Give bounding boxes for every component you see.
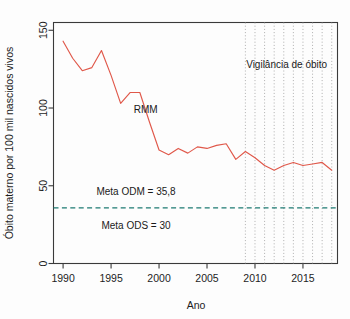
chart-canvas: 050100150 199019952000200520102015 Óbito… [0, 0, 350, 319]
x-tick-label-2005: 2005 [195, 272, 219, 284]
surveillance-label: Vigilância de óbito [246, 59, 327, 70]
maternal-mortality-chart-figure: 050100150 199019952000200520102015 Óbito… [0, 0, 350, 319]
y-tick-label-50: 50 [37, 180, 49, 192]
x-axis-ticks: 199019952000200520102015 [51, 264, 314, 284]
y-tick-label-0: 0 [37, 260, 49, 266]
y-tick-label-150: 150 [37, 21, 49, 39]
y-axis-ticks: 050100150 [37, 21, 53, 266]
x-tick-label-2000: 2000 [147, 272, 171, 284]
y-tick-label-100: 100 [37, 99, 49, 117]
odm-target-label: Meta ODM = 35,8 [96, 186, 176, 197]
x-tick-label-2010: 2010 [243, 272, 267, 284]
x-tick-label-2015: 2015 [291, 272, 315, 284]
y-axis-title: Óbito materno por 100 mil nascidos vivos [3, 47, 15, 240]
series-label-rmm: RMM [134, 104, 158, 115]
ods-target-label: Meta ODS = 30 [101, 220, 171, 231]
x-axis-title: Ano [187, 299, 206, 311]
x-tick-label-1995: 1995 [99, 272, 123, 284]
x-tick-label-1990: 1990 [51, 272, 75, 284]
